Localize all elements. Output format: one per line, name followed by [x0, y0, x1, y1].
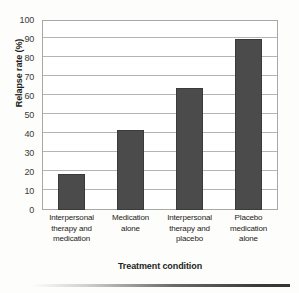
gridline: [43, 151, 277, 152]
y-axis-tick-labels: 0102030405060708090100: [0, 20, 38, 210]
y-tick-label: 30: [24, 148, 34, 158]
x-category-label: Interpersonaltherapy andmedication: [42, 213, 101, 257]
gridlines: [43, 21, 277, 209]
x-category-label-line: Medication: [102, 213, 159, 224]
gridline: [43, 170, 277, 171]
y-tick-label: 20: [24, 167, 34, 177]
gridline: [43, 56, 277, 57]
gridline: [43, 132, 277, 133]
y-tick-label: 60: [24, 91, 34, 101]
x-category-label-line: medication: [220, 224, 277, 235]
x-category-label-line: Placebo: [220, 213, 277, 224]
x-category-label-line: Interpersonal: [161, 213, 218, 224]
y-tick-label: 0: [29, 205, 34, 215]
gridline: [43, 94, 277, 95]
x-category-label-line: therapy and: [161, 224, 218, 235]
y-tick-label: 80: [24, 53, 34, 63]
y-tick-label: 90: [24, 34, 34, 44]
y-tick-label: 50: [24, 110, 34, 120]
x-category-label-line: alone: [220, 234, 277, 245]
gridline: [43, 75, 277, 76]
x-category-label: Placebomedicationalone: [219, 213, 278, 257]
gridline: [43, 189, 277, 190]
y-tick-label: 70: [24, 72, 34, 82]
gridline: [43, 113, 277, 114]
footer-divider: [30, 284, 290, 287]
x-axis-title: Treatment condition: [42, 261, 278, 271]
x-category-label: Interpersonaltherapy andplacebo: [160, 213, 219, 257]
x-category-label-line: Interpersonal: [43, 213, 100, 224]
y-tick-label: 10: [24, 186, 34, 196]
y-tick-label: 40: [24, 129, 34, 139]
plot-area: [42, 20, 278, 210]
y-tick-label: 100: [20, 15, 34, 25]
x-category-label: Medicationalone: [101, 213, 160, 257]
x-category-label-line: alone: [102, 224, 159, 235]
x-category-label-line: therapy and: [43, 224, 100, 235]
x-category-label-line: medication: [43, 234, 100, 245]
gridline: [43, 37, 277, 38]
x-category-label-line: placebo: [161, 234, 218, 245]
chart-figure: Relapse rate (%) 0102030405060708090100 …: [0, 0, 299, 293]
x-axis-category-labels: Interpersonaltherapy andmedicationMedica…: [42, 213, 278, 257]
